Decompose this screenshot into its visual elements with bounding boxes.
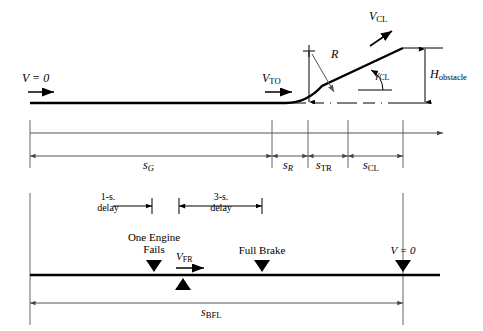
marker-one-engine-fails [146, 260, 162, 272]
label-delay-1s-line2: delay [86, 203, 130, 214]
label-v-to-sub: TO [269, 76, 280, 86]
label-v-cl-sub: CL [376, 14, 387, 24]
label-h-obstacle: Hobstacle [430, 68, 467, 81]
label-segment-sR: sR [283, 159, 293, 172]
label-sCL-sub: CL [368, 163, 379, 173]
marker-full-brake [254, 260, 270, 272]
label-delay-3s-line1: 3-s. [199, 192, 243, 203]
label-v-cl: VCL [369, 10, 387, 23]
label-gamma-cl: γCL [375, 69, 389, 81]
v-cl-arrow [370, 31, 392, 46]
label-gamma-sub: CL [379, 73, 389, 82]
label-sTR-sub: TR [321, 163, 332, 173]
label-v-fr: VFR [176, 251, 192, 263]
label-sBFL: sBFL [201, 306, 222, 319]
takeoff-distance-figure: V = 0 VTO VCL R γCL Hobstacle sG sR sTR … [0, 0, 483, 331]
label-v-fr-base: V [176, 250, 183, 262]
label-full-brake: Full Brake [222, 245, 302, 257]
label-sR-base: s [283, 158, 288, 172]
distance-extension-lines [30, 120, 403, 168]
label-v-to: VTO [262, 72, 281, 85]
label-v-zero-lower: V = 0 [378, 245, 428, 257]
label-sG-sub: G [148, 163, 154, 173]
label-v-fr-sub: FR [183, 255, 193, 264]
label-sCL-base: s [363, 158, 368, 172]
label-delay-1s-line1: 1-s. [86, 192, 130, 203]
label-sTR-base: s [316, 158, 321, 172]
label-radius: R [331, 48, 338, 61]
label-delay-1s: 1-s. delay [86, 192, 130, 213]
label-segment-sTR: sTR [316, 159, 332, 172]
marker-v-zero [395, 260, 411, 272]
label-sBFL-base: s [201, 305, 206, 319]
label-one-engine-fails-line1: One Engine [114, 232, 194, 244]
label-sG-base: s [143, 158, 148, 172]
label-v-zero: V = 0 [22, 72, 49, 85]
label-h-obstacle-base: H [430, 67, 439, 81]
label-segment-sCL: sCL [363, 159, 379, 172]
label-segment-sG: sG [143, 159, 154, 172]
figure-vector-layer [0, 0, 483, 331]
label-sBFL-sub: BFL [206, 310, 222, 320]
label-delay-3s-line2: delay [199, 203, 243, 214]
label-h-obstacle-sub: obstacle [439, 72, 467, 82]
label-sR-sub: R [288, 163, 293, 173]
marker-decision-point [175, 278, 191, 290]
label-delay-3s: 3-s. delay [199, 192, 243, 213]
